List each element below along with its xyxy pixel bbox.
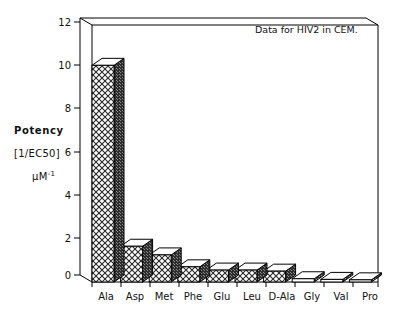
y-tick-label-6: 6 <box>65 147 71 158</box>
y-axis-title-line2: [1/EC50] <box>14 148 60 159</box>
y-tick-label-10: 10 <box>58 60 71 71</box>
x-tick-label-d-ala: D-Ala <box>269 291 296 302</box>
x-tick-label-glu: Glu <box>214 291 231 302</box>
y-axis-title-line3-sup: -1 <box>48 170 56 178</box>
chart-root: 12 10 8 6 4 2 0 Potency [1/EC50] µM-1 Da… <box>0 0 393 321</box>
bar-ala <box>92 58 124 282</box>
bar-asp <box>121 239 153 282</box>
bar-side-face <box>114 58 124 282</box>
bar-front-face <box>321 279 343 282</box>
x-tick-label-val: Val <box>334 291 349 302</box>
bar-chart: 12 10 8 6 4 2 0 Potency [1/EC50] µM-1 Da… <box>0 0 393 321</box>
x-tick-label-asp: Asp <box>126 291 144 302</box>
y-tick-label-4: 4 <box>65 190 71 201</box>
y-tick-label-8: 8 <box>65 103 71 114</box>
chart-annotation: Data for HIV2 in CEM. <box>255 24 358 35</box>
y-tick-label-12: 12 <box>58 17 71 28</box>
x-tick-label-met: Met <box>155 291 174 302</box>
x-tick-label-leu: Leu <box>243 291 261 302</box>
x-tick-label-gly: Gly <box>304 291 321 302</box>
x-tick-label-pro: Pro <box>362 291 378 302</box>
bar-phe <box>178 260 210 282</box>
bar-met <box>149 248 181 282</box>
x-tick-label-ala: Ala <box>98 291 114 302</box>
x-tick-label-phe: Phe <box>184 291 203 302</box>
bar-front-face <box>349 280 371 282</box>
y-axis-title-line1: Potency <box>14 125 64 136</box>
y-tick-label-0: 0 <box>65 270 71 281</box>
y-tick-label-2: 2 <box>65 233 71 244</box>
bar-front-face <box>292 279 314 282</box>
y-axis-title-line3-base: µM <box>32 171 48 182</box>
bar-front-face <box>92 65 114 282</box>
